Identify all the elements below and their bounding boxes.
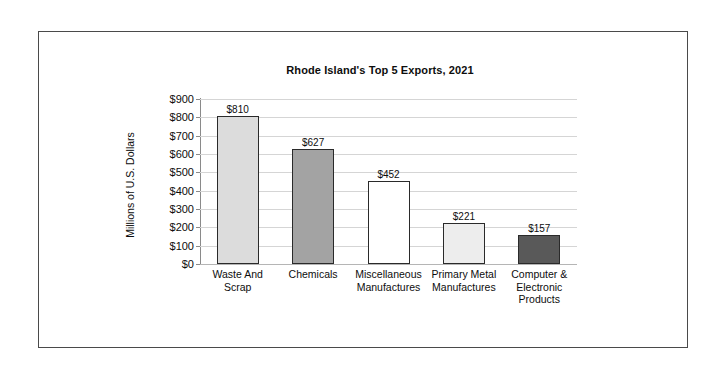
y-axis-tick-label: $200 [138,221,194,233]
category-label-line: Manufactures [351,281,426,294]
category-label-line: Waste And [200,268,275,281]
y-axis-tick-label: $600 [138,148,194,160]
bar-value-label: $627 [302,137,324,148]
y-axis-tick-label: $800 [138,111,194,123]
category-label-line: Miscellaneous [351,268,426,281]
category-label-line: Computer & [502,268,577,281]
category-label-line: Manufactures [426,281,501,294]
category-label-line: Products [502,293,577,306]
bar-value-label: $221 [453,211,475,222]
bar: $627 [292,149,334,264]
gridline [200,264,577,265]
y-axis-tick-label: $100 [138,240,194,252]
bar: $221 [443,223,485,264]
y-axis-tick-label: $300 [138,203,194,215]
x-axis-category-label: Waste AndScrap [200,268,275,293]
bar: $157 [518,235,560,264]
y-axis-tick-labels: $900$800$700$600$500$400$300$200$100$0 [132,99,194,264]
chart-title: Rhode Island's Top 5 Exports, 2021 [160,64,600,76]
bar-value-label: $157 [528,223,550,234]
bar: $810 [217,116,259,265]
x-axis-category-labels: Waste AndScrapChemicalsMiscellaneousManu… [200,268,577,328]
gridline [200,99,577,100]
y-axis-tick-label: $400 [138,185,194,197]
category-label-line: Electronic [502,281,577,294]
x-axis-category-label: MiscellaneousManufactures [351,268,426,293]
y-axis-tick-label: $500 [138,166,194,178]
category-label-line: Scrap [200,281,275,294]
category-label-line: Chemicals [275,268,350,281]
category-label-line: Primary Metal [426,268,501,281]
y-axis-tick-label: $0 [138,258,194,270]
bar-value-label: $810 [227,104,249,115]
y-axis-tick-label: $700 [138,130,194,142]
plot-area: $810$627$452$221$157 [200,99,577,264]
bar: $452 [368,181,410,264]
x-axis-category-label: Primary MetalManufactures [426,268,501,293]
y-axis-tick-label: $900 [138,93,194,105]
x-axis-category-label: Computer &ElectronicProducts [502,268,577,306]
screenshot-canvas: Rhode Island's Top 5 Exports, 2021 Milli… [0,0,721,374]
x-axis-category-label: Chemicals [275,268,350,281]
bar-value-label: $452 [377,169,399,180]
